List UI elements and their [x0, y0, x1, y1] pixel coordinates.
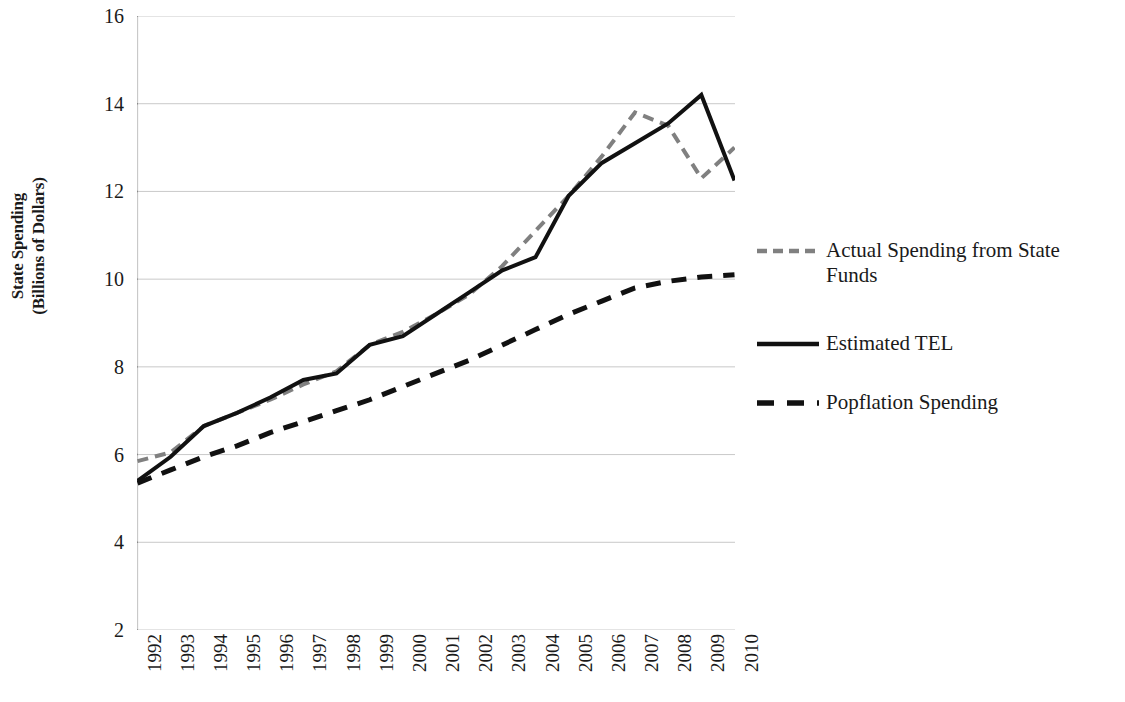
chart-canvas — [137, 16, 735, 630]
x-axis-tick-label: 2003 — [509, 634, 528, 672]
y-axis-title-line-1: State Spending — [7, 126, 28, 366]
y-axis-title: State Spending (Billions of Dollars) — [7, 126, 49, 366]
x-axis-tick-label: 2000 — [410, 634, 429, 672]
y-axis-tick-label: 6 — [76, 445, 124, 465]
y-axis-tick-label: 14 — [76, 94, 124, 114]
y-axis-tick-labels: 246810121416 — [66, 16, 124, 630]
x-axis-tick-label: 1995 — [244, 634, 263, 672]
x-axis-tick-label: 1998 — [344, 634, 363, 672]
plot-area — [137, 16, 735, 630]
x-axis-tick-labels: 1992199319941995199619971998199920002001… — [137, 634, 737, 702]
series-line-2 — [138, 275, 735, 483]
x-axis-tick-label: 2001 — [443, 634, 462, 672]
series-line-1 — [138, 95, 735, 481]
x-axis-tick-label: 2008 — [675, 634, 694, 672]
y-axis-tick-label: 4 — [76, 532, 124, 552]
y-axis-tick-label: 2 — [76, 620, 124, 640]
y-axis-tick-label: 8 — [76, 357, 124, 377]
x-axis-tick-label: 1997 — [310, 634, 329, 672]
black-solid-line-sample — [757, 334, 819, 354]
y-axis-tick-label: 12 — [76, 181, 124, 201]
gridlines — [137, 16, 735, 630]
y-axis-title-line-2: (Billions of Dollars) — [28, 126, 49, 366]
x-axis-tick-label: 2004 — [543, 634, 562, 672]
data-series-layer — [138, 95, 735, 483]
x-axis-tick-label: 2002 — [476, 634, 495, 672]
x-axis-tick-label: 2007 — [642, 634, 661, 672]
legend-item-label: Estimated TEL — [819, 331, 953, 356]
x-axis-tick-label: 2005 — [576, 634, 595, 672]
x-axis-tick-label: 2009 — [708, 634, 727, 672]
x-axis-tick-label: 2006 — [609, 634, 628, 672]
legend-item-label: Actual Spending from State Funds — [819, 238, 1116, 288]
x-axis-tick-label: 1996 — [277, 634, 296, 672]
legend-item: Estimated TEL — [757, 331, 953, 356]
x-axis-tick-label: 2010 — [742, 634, 761, 672]
y-axis-tick-label: 16 — [76, 6, 124, 26]
axis-lines — [137, 16, 138, 630]
legend-item: Actual Spending from State Funds — [757, 238, 1116, 288]
x-axis-tick-label: 1999 — [377, 634, 396, 672]
x-axis-tick-label: 1993 — [178, 634, 197, 672]
legend-item: Popflation Spending — [757, 390, 998, 415]
y-axis-tick-label: 10 — [76, 269, 124, 289]
gray-dashed-line-sample — [757, 241, 819, 261]
legend-item-label: Popflation Spending — [819, 390, 998, 415]
series-line-0 — [138, 112, 735, 461]
chart-figure: State Spending (Billions of Dollars) 246… — [0, 0, 1125, 702]
black-dashed-line-sample — [757, 393, 819, 413]
x-axis-tick-label: 1992 — [145, 634, 164, 672]
x-axis-tick-label: 1994 — [211, 634, 230, 672]
